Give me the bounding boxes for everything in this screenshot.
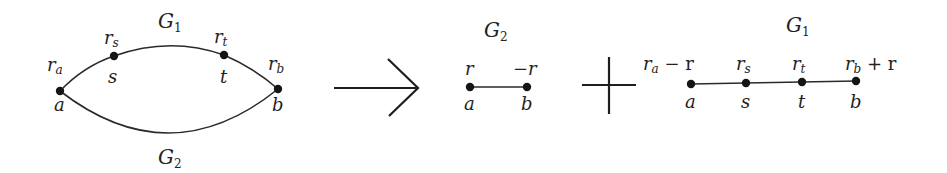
left-name-t: t [220, 66, 228, 87]
right-g1-label: G1 [786, 13, 810, 39]
right-name-s: s [741, 91, 750, 112]
left-node-t [220, 51, 228, 59]
right-edge-path [691, 81, 856, 84]
arrow-icon [334, 59, 418, 116]
right-graph: G1 ra − r rs rt rb + r a s t b [643, 13, 897, 112]
right-node-t [798, 78, 806, 86]
left-edge-a-s [60, 56, 114, 91]
left-node-s [110, 52, 118, 60]
middle-g2-label: G2 [484, 18, 508, 44]
left-g1-label: G1 [158, 9, 182, 35]
middle-node-a [466, 83, 474, 91]
right-value-s: rs [736, 53, 751, 76]
left-graph: G1 G2 ra rs rt rb a s t b [47, 9, 284, 171]
left-name-b: b [272, 94, 284, 115]
diagram-canvas: G1 G2 ra rs rt rb a s t b G2 r −r a b G1 [0, 0, 947, 173]
left-value-b: rb [268, 53, 284, 76]
left-name-s: s [108, 66, 117, 87]
left-value-a: ra [47, 54, 63, 77]
left-value-t: rt [214, 26, 228, 49]
plus-icon [582, 57, 636, 114]
right-node-a [687, 80, 695, 88]
right-name-b: b [850, 91, 862, 112]
right-node-s [742, 79, 750, 87]
left-node-b [274, 85, 282, 93]
left-name-a: a [54, 94, 65, 115]
middle-name-a: a [464, 93, 475, 114]
middle-graph: G2 r −r a b [464, 18, 538, 114]
right-name-t: t [798, 91, 806, 112]
left-edge-a-b-bottom [60, 89, 278, 133]
middle-name-b: b [521, 93, 533, 114]
right-value-b: rb + r [845, 53, 897, 76]
left-edge-s-t [114, 46, 224, 56]
right-value-a: ra − r [643, 53, 694, 76]
left-g2-label: G2 [158, 145, 182, 171]
right-name-a: a [685, 91, 696, 112]
middle-node-b [523, 83, 531, 91]
middle-value-a: r [465, 58, 475, 79]
right-value-t: rt [792, 53, 806, 76]
left-value-s: rs [104, 27, 119, 50]
middle-value-b: −r [513, 58, 538, 79]
right-node-b [852, 77, 860, 85]
